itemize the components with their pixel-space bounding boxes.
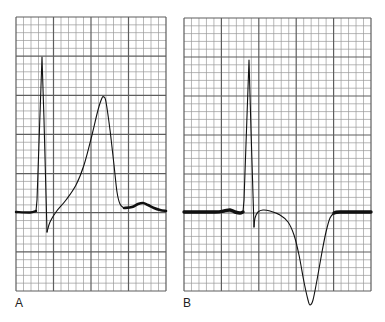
ecg-panel-a <box>16 17 166 291</box>
ecg-trace-st-t <box>47 96 124 232</box>
ecg-trace-baseline-pre <box>16 211 36 213</box>
ecg-trace-qrs <box>243 60 254 227</box>
ecg-grid <box>184 18 371 291</box>
panel-label-a: A <box>15 296 23 310</box>
ecg-panel-b <box>184 18 371 305</box>
ecg-trace-baseline-post <box>124 203 166 211</box>
ecg-trace-qrs <box>36 57 47 232</box>
ecg-trace-baseline-pre <box>184 210 243 213</box>
ecg-figure <box>0 0 385 322</box>
panel-label-b: B <box>183 296 191 310</box>
ecg-trace-baseline-post <box>334 212 371 213</box>
